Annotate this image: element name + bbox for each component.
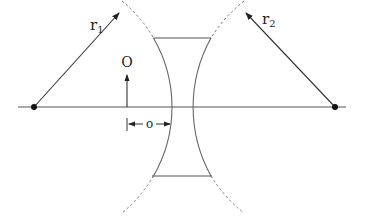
center-of-curvature-right	[332, 104, 338, 110]
right-surface-arc-dashed-bottom	[211, 176, 244, 213]
label-object: O	[121, 54, 132, 70]
lens-diagram: r1 r2 O o	[0, 0, 367, 220]
label-r2: r2	[262, 10, 276, 29]
label-object-distance: o	[146, 117, 153, 131]
center-of-curvature-left	[31, 104, 37, 110]
left-surface-arc-dashed-top	[122, 1, 154, 38]
radius-r1-arrow	[34, 13, 119, 107]
label-r1: r1	[90, 16, 104, 35]
right-surface-arc-dashed-top	[211, 1, 244, 38]
radius-r2-arrow	[246, 13, 335, 107]
left-surface-arc-dashed-bottom	[122, 176, 154, 213]
